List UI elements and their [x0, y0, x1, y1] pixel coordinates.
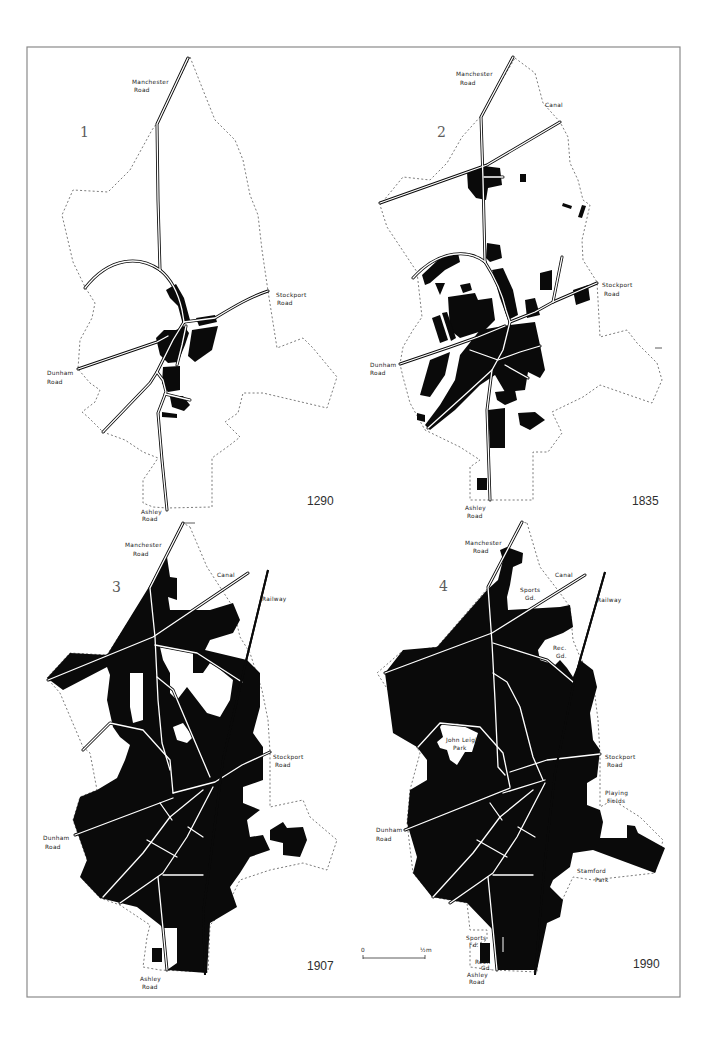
- building-block: [152, 948, 162, 962]
- building-block: [578, 205, 586, 218]
- label-dunham-road: Road: [370, 370, 386, 376]
- label-ashley-road: Ashley: [140, 976, 161, 983]
- label-canal: Canal: [545, 102, 563, 108]
- label-manchester-road: Manchester: [125, 542, 162, 548]
- road-network: [380, 57, 597, 500]
- built-up-island: [270, 822, 307, 857]
- map-panel-1290: 1 1290 Manchester Road Stockport Road Du…: [47, 57, 337, 522]
- label-manchester-road: Road: [133, 551, 149, 557]
- label-ashley-road: Road: [469, 979, 485, 985]
- panel-year: 1907: [307, 959, 334, 973]
- label-ashley-road: Ashley: [465, 505, 486, 512]
- label-ashley-road: Road: [142, 984, 158, 990]
- label-playing-fields: Fields: [607, 798, 625, 804]
- label-stamford-park: Stamford: [577, 868, 606, 874]
- scale-bar-end: ½m: [420, 947, 432, 953]
- building-block: [518, 412, 545, 430]
- label-stockport-road: Road: [275, 762, 291, 768]
- map-panel-1990: 0 ½m 4 1990 Manchester Road Canal Sports…: [361, 522, 665, 985]
- label-ashley-road: Ashley: [467, 972, 488, 979]
- label-ashley-road: Ashley: [141, 509, 162, 516]
- building-block: [417, 413, 425, 422]
- road-fill: [184, 291, 268, 322]
- label-dunham-road: Dunham: [376, 827, 403, 833]
- panel-year: 1990: [633, 957, 660, 971]
- label-john-leigh-park: Park: [453, 745, 467, 751]
- canal: [380, 122, 560, 203]
- label-playing-fields: Playing: [605, 790, 628, 797]
- road-fill: [157, 58, 188, 270]
- panel-year: 1835: [632, 494, 659, 508]
- road-network: [78, 58, 268, 510]
- label-dunham-road: Dunham: [47, 370, 74, 376]
- panel-number: 2: [437, 124, 446, 140]
- map-panel-1835: 2 1835 Manchester Road Canal Stockport R…: [370, 57, 662, 519]
- town-growth-figure: 1 1290 Manchester Road Stockport Road Du…: [0, 0, 716, 1037]
- label-john-leigh-park: John Leigh: [445, 737, 479, 744]
- label-stockport-road: Stockport: [605, 754, 636, 761]
- building-block: [520, 174, 526, 182]
- panel-number: 1: [80, 124, 89, 140]
- label-canal: Canal: [555, 572, 573, 578]
- label-canal: Canal: [217, 572, 235, 578]
- canal-fill: [380, 122, 560, 203]
- map-panel-1907: 3 1907 Manchester Road Canal Railway Sto…: [43, 523, 337, 990]
- label-recreation-ground: Gd.: [556, 653, 567, 659]
- label-stockport-road: Stockport: [602, 282, 633, 289]
- parish-boundary: [380, 58, 662, 500]
- label-manchester-road: Manchester: [456, 71, 493, 77]
- building-block: [460, 283, 472, 293]
- panel-number: 3: [112, 579, 121, 595]
- label-ashley-road: Road: [142, 516, 158, 522]
- label-ashley-road: Road: [467, 513, 483, 519]
- scale-bar: 0 ½m: [361, 947, 432, 959]
- building-block: [477, 478, 487, 490]
- label-sports-field: Sports: [466, 935, 486, 942]
- label-dunham-road: Road: [45, 844, 61, 850]
- label-sports-field: Fd.: [469, 942, 479, 948]
- label-sports-ground: Gd.: [525, 595, 536, 601]
- building-block: [488, 408, 505, 448]
- label-manchester-road: Manchester: [132, 79, 169, 85]
- label-stockport-road: Road: [604, 291, 620, 297]
- label-dunham-road: Dunham: [43, 835, 70, 841]
- label-stamford-park: Park: [595, 877, 609, 883]
- building-block: [562, 203, 572, 209]
- building-block: [188, 326, 218, 362]
- open-land: [130, 673, 143, 723]
- label-dunham-road: Road: [376, 836, 392, 842]
- panel-number: 4: [439, 578, 448, 594]
- label-railway: Railway: [262, 596, 287, 603]
- label-manchester-road: Road: [134, 87, 150, 93]
- label-sports-ground: Sports: [520, 587, 540, 594]
- building-block: [162, 412, 177, 418]
- label-stockport-road: Road: [277, 300, 293, 306]
- label-manchester-road: Road: [460, 80, 476, 86]
- label-manchester-road: Manchester: [465, 540, 502, 546]
- label-stockport-road: Stockport: [273, 754, 304, 761]
- label-recreation-ground: Gd.: [481, 965, 492, 971]
- label-manchester-road: Road: [473, 548, 489, 554]
- label-dunham-road: Road: [47, 379, 63, 385]
- label-stockport-road: Road: [607, 762, 623, 768]
- building-block: [486, 243, 502, 262]
- road-west: [85, 261, 160, 288]
- building-block: [495, 390, 517, 405]
- panel-year: 1290: [307, 494, 334, 508]
- road-fill: [553, 257, 562, 302]
- built-up-mass: [47, 557, 270, 973]
- building-block: [166, 284, 190, 325]
- label-recreation-ground: Rec.: [553, 645, 567, 651]
- scale-bar-start: 0: [361, 947, 365, 953]
- parish-boundary: [62, 57, 337, 508]
- building-block: [492, 268, 518, 320]
- building-block: [540, 270, 552, 290]
- building-block: [435, 283, 445, 295]
- building-block: [420, 352, 450, 397]
- label-dunham-road: Dunham: [370, 362, 397, 368]
- label-railway: Railway: [597, 597, 622, 604]
- label-stockport-road: Stockport: [276, 292, 307, 299]
